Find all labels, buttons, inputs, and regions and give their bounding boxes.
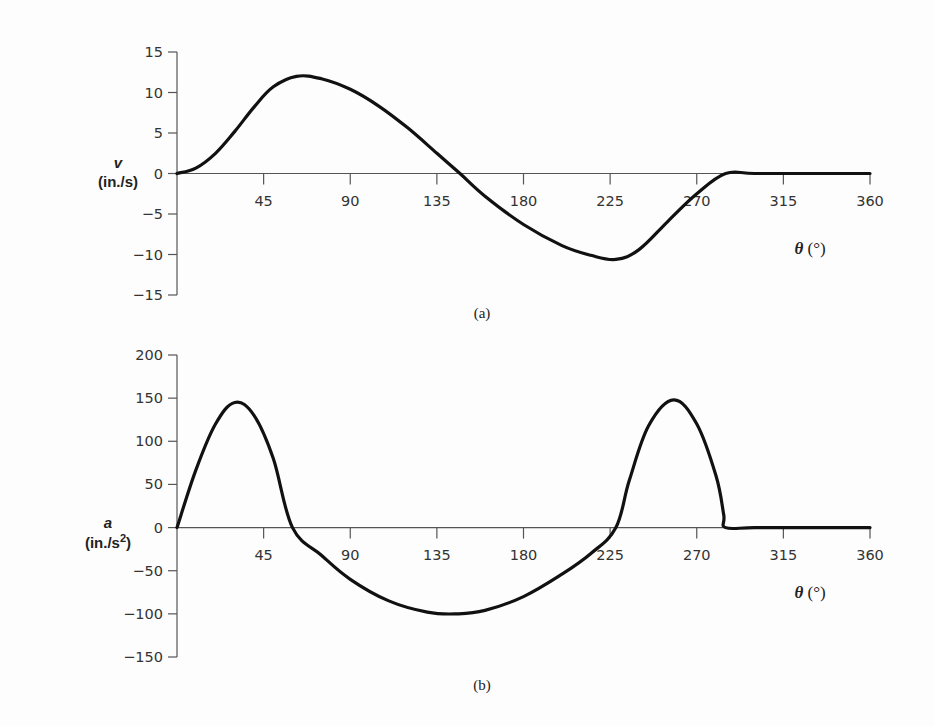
y-tick-label: 10 bbox=[145, 85, 163, 101]
acceleration-y-tick-labels: 200150100500−50−100−150 bbox=[123, 347, 163, 665]
x-tick-label: 45 bbox=[254, 193, 272, 209]
x-tick-label: 315 bbox=[770, 547, 798, 563]
y-tick-label: −10 bbox=[132, 247, 163, 263]
acceleration-axes bbox=[168, 355, 870, 657]
acceleration-y-label-var: a bbox=[104, 514, 112, 531]
x-tick-label: 360 bbox=[856, 193, 884, 209]
y-tick-label: 0 bbox=[154, 520, 163, 536]
x-tick-label: 135 bbox=[423, 547, 451, 563]
velocity-y-label-var: v bbox=[114, 154, 124, 171]
x-tick-label: 270 bbox=[683, 547, 711, 563]
y-tick-label: 200 bbox=[135, 347, 163, 363]
velocity-curve bbox=[177, 76, 870, 260]
x-tick-label: 225 bbox=[596, 547, 624, 563]
x-tick-label: 135 bbox=[423, 193, 451, 209]
x-tick-label: 225 bbox=[596, 193, 624, 209]
y-tick-label: −150 bbox=[123, 649, 163, 665]
x-tick-label: 315 bbox=[770, 193, 798, 209]
x-tick-label: 360 bbox=[856, 547, 884, 563]
acceleration-curve bbox=[177, 400, 870, 614]
y-tick-label: 100 bbox=[135, 433, 163, 449]
y-tick-label: 0 bbox=[154, 166, 163, 182]
velocity-chart: 151050−5−10−15 4590135180225270315360 v … bbox=[98, 44, 884, 322]
y-tick-label: −50 bbox=[132, 563, 163, 579]
y-tick-label: 5 bbox=[154, 125, 163, 141]
acceleration-x-label: θ (°) bbox=[794, 583, 825, 602]
y-tick-label: 15 bbox=[145, 44, 163, 60]
x-tick-label: 90 bbox=[341, 547, 359, 563]
velocity-x-tick-labels: 4590135180225270315360 bbox=[254, 193, 883, 209]
velocity-y-label-unit: (in./s) bbox=[98, 173, 138, 190]
figure: 151050−5−10−15 4590135180225270315360 v … bbox=[0, 0, 934, 726]
acceleration-chart: 200150100500−50−100−150 4590135180225270… bbox=[85, 347, 884, 694]
panel-b-caption: (b) bbox=[473, 677, 491, 694]
y-tick-label: −15 bbox=[132, 287, 163, 303]
panel-a-caption: (a) bbox=[474, 305, 491, 322]
y-tick-label: −5 bbox=[142, 206, 163, 222]
acceleration-x-tick-labels: 4590135180225270315360 bbox=[254, 547, 883, 563]
x-tick-label: 180 bbox=[510, 193, 538, 209]
x-tick-label: 45 bbox=[254, 547, 272, 563]
x-tick-label: 90 bbox=[341, 193, 359, 209]
velocity-x-label: θ (°) bbox=[794, 239, 825, 258]
y-tick-label: 150 bbox=[135, 390, 163, 406]
x-tick-label: 180 bbox=[510, 547, 538, 563]
y-tick-label: 50 bbox=[145, 476, 163, 492]
acceleration-y-label-unit: (in./s2) bbox=[85, 532, 131, 551]
y-tick-label: −100 bbox=[123, 606, 163, 622]
